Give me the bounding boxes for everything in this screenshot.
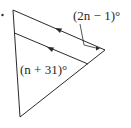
diagram-canvas: (2n − 1)° (n + 31)° bbox=[0, 0, 131, 128]
bullet-dot bbox=[1, 14, 3, 16]
angle-label-top: (2n − 1)° bbox=[73, 8, 120, 23]
angle-leader-line bbox=[80, 24, 96, 48]
angle-label-inner: (n + 31)° bbox=[20, 62, 67, 77]
parallel-arrow-top-icon bbox=[55, 28, 62, 33]
parallel-arrow-inner-icon bbox=[47, 47, 54, 52]
